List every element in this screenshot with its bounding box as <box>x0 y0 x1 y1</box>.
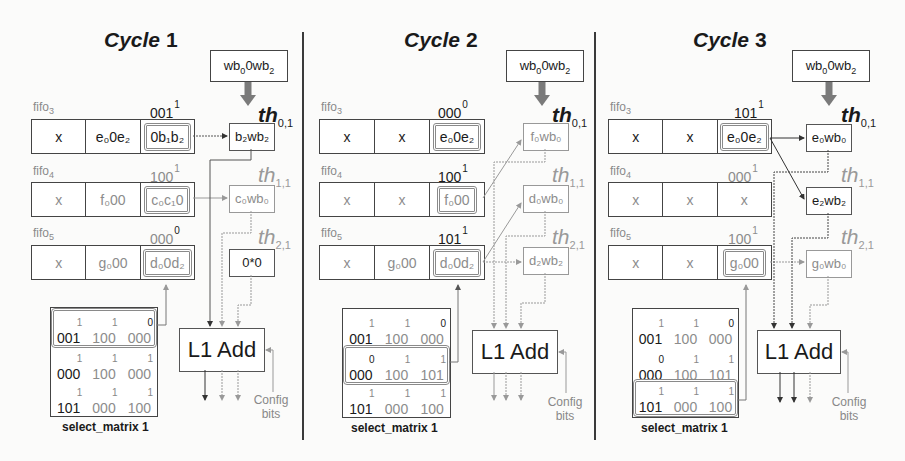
select-matrix: 0011 1001 0000 0000 1001 1011 1011 0001 … <box>632 308 739 418</box>
fifo-row: x x f₀00 <box>319 182 485 217</box>
thread-output-box: f₀wb₀ <box>523 123 569 151</box>
fifo-cell: e₀0e₂ <box>86 120 140 153</box>
fifo-row: x e₀0e₂ 0b₁b₂ <box>31 119 195 154</box>
fifo-cell-selected: 0b₁b₂ <box>141 120 194 153</box>
fifo-cell: x <box>663 246 717 279</box>
thread-label: th1,1 <box>841 163 874 189</box>
thread-output-box: b₂wb₂ <box>229 123 275 151</box>
fifo-select-code: 0011 <box>150 103 180 121</box>
thread-output-box: e₂wb₂ <box>806 187 852 215</box>
matrix-caption: select_matrix 1 <box>641 421 728 435</box>
fifo-label: fifo3 <box>33 100 54 116</box>
fifo-row: x x g₀00 <box>608 245 772 280</box>
fifo-label: fifo4 <box>33 164 54 180</box>
fifo-cell: x <box>609 246 663 279</box>
fifo-cell-selected: g₀00 <box>718 246 771 279</box>
fifo-row: x x e₀0e₂ <box>319 119 485 154</box>
matrix-caption: select_matrix 1 <box>351 421 438 435</box>
matrix-row: 1011 0001 1001 <box>51 378 157 418</box>
fifo-row: x g₀00 d₀0d₂ <box>319 245 485 280</box>
thread-output-box: e₀wb₀ <box>806 124 852 152</box>
thread-output-box: d₂wb₂ <box>523 247 569 275</box>
config-bits-label: Configbits <box>544 395 586 423</box>
fifo-cell: x <box>320 246 375 279</box>
select-matrix: 0011 1001 0000 0001 1001 0001 1011 0001 … <box>50 307 158 417</box>
fifo-label: fifo4 <box>321 164 342 180</box>
cycle-panel-1: Cycle 1 wb00wb2 fifo3 0011 x e₀0e₂ 0b₁b₂… <box>0 0 300 461</box>
cycle-title: Cycle 3 <box>693 28 767 52</box>
fifo-select-code: 1001 <box>728 229 758 247</box>
cycle-title: Cycle 2 <box>404 28 478 52</box>
l1-adder: L1 Add <box>472 330 558 374</box>
weight-buffer-box: wb00wb2 <box>792 50 870 82</box>
fifo-label: fifo3 <box>321 100 342 116</box>
cycle-title-number: 3 <box>755 28 767 51</box>
fifo-cell: x <box>663 120 717 153</box>
weight-buffer-box: wb00wb2 <box>210 50 288 82</box>
fifo-cell: f₀00 <box>86 183 140 216</box>
fifo-cell-selected: c₀c₁0 <box>141 183 194 216</box>
fifo-cell-selected: d₀0d₂ <box>141 246 194 279</box>
matrix-row-selected: 0011 1001 0000 <box>51 308 157 348</box>
fifo-label: fifo5 <box>33 226 54 242</box>
fifo-cell-selected: f₀00 <box>430 183 484 216</box>
config-bits-label: Configbits <box>250 393 292 421</box>
fifo-row: x f₀00 c₀c₁0 <box>31 182 195 217</box>
fifo-cell-selected: d₀0d₂ <box>430 246 484 279</box>
cycle-panel-3: Cycle 3 wb00wb2 fifo3 1011 x x e₀0e₂ fif… <box>596 0 905 461</box>
cycle-title-word: Cycle <box>404 28 460 51</box>
matrix-row-selected: 1011 0001 1001 <box>633 379 738 417</box>
fifo-label: fifo5 <box>321 226 342 242</box>
cycle-title-word: Cycle <box>693 28 749 51</box>
matrix-caption: select_matrix 1 <box>62 420 149 434</box>
fifo-select-code: 1011 <box>734 103 764 121</box>
fifo-row: x g₀00 d₀0d₂ <box>31 245 195 280</box>
thread-output-box: d₀wb₀ <box>523 185 569 213</box>
thread-label: th2,1 <box>258 225 291 251</box>
l1-adder: L1 Add <box>179 328 265 372</box>
fifo-cell: x <box>375 183 430 216</box>
matrix-row: 0011 1001 0000 <box>343 309 450 349</box>
thread-label: th2,1 <box>841 225 874 251</box>
cycle-title-word: Cycle <box>104 28 160 51</box>
fifo-row: x x x <box>608 182 772 217</box>
fifo-cell: x <box>32 183 86 216</box>
fifo-cell: x <box>663 183 717 216</box>
matrix-row: 0011 1001 0000 <box>633 309 738 349</box>
fifo-cell: x <box>609 120 663 153</box>
matrix-row: 1011 0001 1001 <box>343 379 450 419</box>
thread-output-box: 0*0 <box>229 249 275 277</box>
config-bits-label: Configbits <box>828 395 870 423</box>
thread-output-box: c₀wb₀ <box>229 185 275 213</box>
fifo-cell: g₀00 <box>86 246 140 279</box>
l1-adder: L1 Add <box>757 330 841 374</box>
thread-output-box: g₀wb₀ <box>806 250 852 278</box>
weight-buffer-box: wb00wb2 <box>506 50 584 82</box>
fifo-cell: x <box>320 120 375 153</box>
cycle-title: Cycle 1 <box>104 28 178 52</box>
fifo-cell-selected: e₀0e₂ <box>718 120 771 153</box>
fifo-cell: x <box>32 120 86 153</box>
fifo-cell-selected: e₀0e₂ <box>430 120 484 153</box>
fifo-select-code: 0000 <box>438 103 468 121</box>
fifo-label: fifo5 <box>610 226 631 242</box>
fifo-cell: g₀00 <box>375 246 430 279</box>
select-matrix: 0011 1001 0000 0000 1001 1011 1011 0001 … <box>342 308 451 418</box>
fifo-label: fifo3 <box>610 100 631 116</box>
fifo-label: fifo4 <box>610 164 631 180</box>
fifo-cell: x <box>320 183 375 216</box>
fifo-cell: x <box>718 183 771 216</box>
fifo-cell: x <box>375 120 430 153</box>
fifo-select-code: 1011 <box>438 229 468 247</box>
cycle-title-number: 2 <box>466 28 478 51</box>
cycle-title-number: 1 <box>166 28 178 51</box>
cycle-panel-2: Cycle 2 wb00wb2 fifo3 0000 x x e₀0e₂ fif… <box>296 0 596 461</box>
fifo-select-code: 0000 <box>150 229 180 247</box>
fifo-cell: x <box>609 183 663 216</box>
fifo-row: x x e₀0e₂ <box>608 119 772 154</box>
fifo-cell: x <box>32 246 86 279</box>
